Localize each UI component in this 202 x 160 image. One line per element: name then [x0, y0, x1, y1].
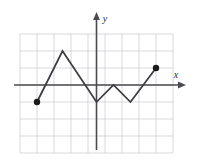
- endpoint-dot: [153, 65, 159, 71]
- x-axis-arrowhead: [178, 82, 186, 89]
- axes: [14, 12, 186, 150]
- y-axis-label: y: [102, 13, 108, 24]
- y-axis-arrowhead: [93, 12, 100, 20]
- x-axis-label: x: [173, 69, 179, 80]
- endpoint-dot: [34, 99, 40, 105]
- graph-figure: x y: [0, 0, 202, 160]
- coordinate-plane: x y: [0, 0, 202, 160]
